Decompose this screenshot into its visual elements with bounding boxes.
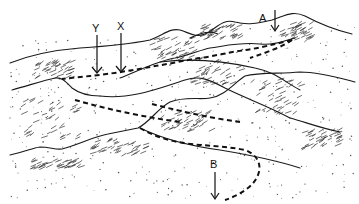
arrow-Y: [92, 35, 102, 73]
right-ridge-tail: [290, 118, 340, 132]
terrain-sketch: Y X A B: [0, 0, 359, 204]
terrain-diagram: Y X A B: [0, 0, 359, 204]
label-B: B: [210, 158, 217, 170]
label-A: A: [259, 12, 267, 24]
hill-right-slope: [160, 60, 300, 90]
arrow-B: [211, 172, 219, 199]
label-Y: Y: [92, 22, 100, 34]
arrow-X: [116, 33, 126, 72]
far-ridge: [10, 13, 352, 63]
terrain-texture: [9, 21, 354, 199]
near-slope: [140, 128, 300, 168]
route-to-B: [75, 100, 259, 200]
route-mid: [152, 104, 240, 122]
label-X: X: [117, 20, 125, 32]
